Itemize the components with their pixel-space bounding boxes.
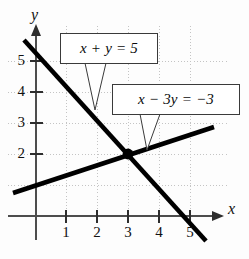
y-tick-label-3: 3 [7,114,25,131]
x-tick-label-5: 5 [181,224,199,241]
x-tick-label-3: 3 [119,224,137,241]
x-tick-label-4: 4 [150,224,168,241]
equation-callout-first-line: x + y = 5 [60,33,158,64]
linear-system-graph: y x 1 2 3 4 5 2 3 4 5 x + y = 5 x − 3y =… [0,0,249,259]
equation-text-first-line: x + y = 5 [80,40,138,57]
y-tick-label-4: 4 [7,83,25,100]
x-axis [8,211,224,221]
x-tick-label-1: 1 [57,224,75,241]
intersection-point-marker [123,149,134,160]
equation-text-second-line: x − 3y = −3 [138,91,214,108]
y-tick-label-2: 2 [7,145,25,162]
equation-callout-second-line: x − 3y = −3 [112,84,240,115]
y-axis-label: y [31,6,38,24]
y-tick-label-5: 5 [7,52,25,69]
callout-1-pointer [85,63,106,110]
x-tick-label-2: 2 [88,224,106,241]
x-axis-label: x [228,200,235,218]
